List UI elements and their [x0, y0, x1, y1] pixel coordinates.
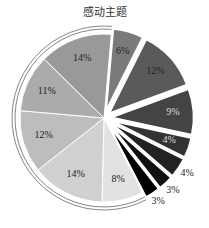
slice-label: 12%: [146, 65, 164, 76]
slice-label: 14%: [73, 52, 91, 63]
slice-label: 14%: [67, 168, 85, 179]
slice-label: 8%: [112, 173, 125, 184]
slice-label: 4%: [180, 167, 193, 178]
slice-label: 3%: [151, 195, 164, 206]
slice-label: 11%: [38, 85, 56, 96]
slice-label: 12%: [34, 129, 52, 140]
slice-label: 4%: [162, 134, 175, 145]
pie-chart: 6%12%9%4%4%3%3%8%14%12%11%14%: [0, 0, 209, 228]
slice-label: 6%: [116, 45, 129, 56]
slice-label: 3%: [166, 184, 179, 195]
slice-label: 9%: [166, 106, 179, 117]
